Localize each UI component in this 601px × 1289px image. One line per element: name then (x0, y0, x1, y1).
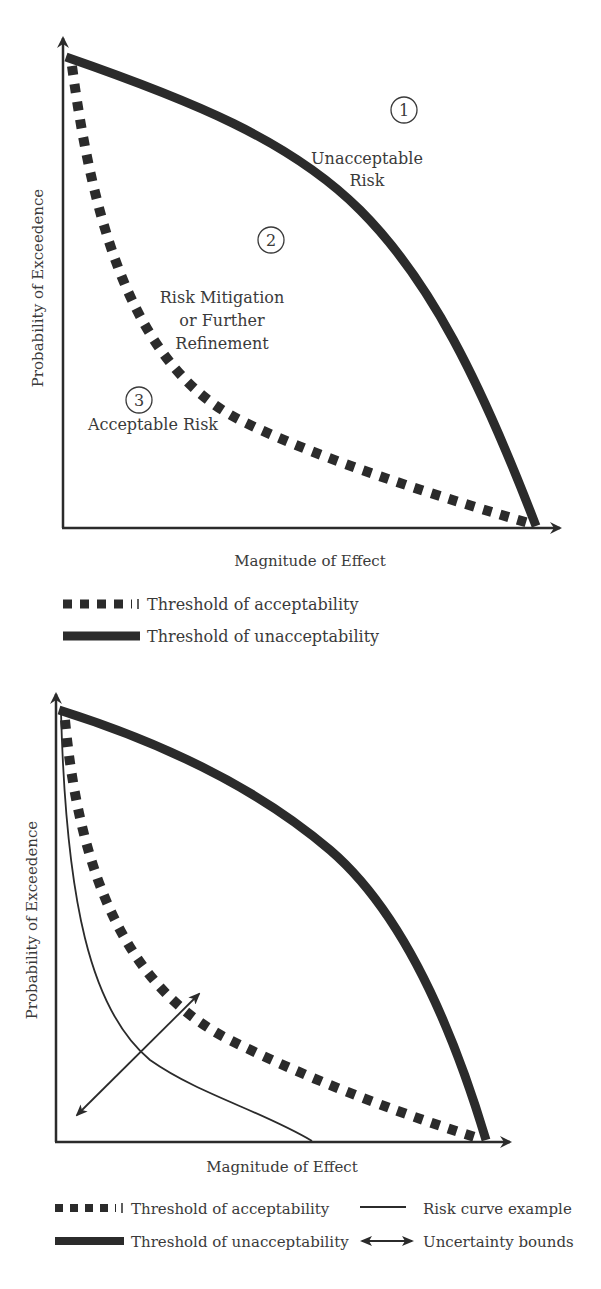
bottom-y-axis-label: Probability of Exceedence (23, 821, 41, 1020)
acceptability-threshold-curve (65, 720, 478, 1138)
top-chart: 1 Unacceptable Risk 2 Risk Mitigation or… (29, 38, 560, 646)
bottom-legend: Threshold of acceptability Threshold of … (55, 1200, 574, 1251)
region-3-label: Acceptable Risk (87, 415, 218, 434)
region-3: 3 Acceptable Risk (87, 387, 218, 434)
top-legend-unacceptability: Threshold of unacceptability (147, 627, 379, 646)
top-x-axis-label: Magnitude of Effect (234, 552, 386, 570)
unacceptability-threshold-curve (66, 57, 536, 526)
region-2-label-line1: Risk Mitigation (160, 288, 284, 307)
bottom-x-axis-label: Magnitude of Effect (206, 1158, 358, 1176)
bottom-legend-acceptability: Threshold of acceptability (131, 1200, 330, 1218)
region-1-label-line2: Risk (349, 171, 384, 190)
top-legend: Threshold of acceptability Threshold of … (63, 595, 379, 646)
risk-threshold-diagram: 1 Unacceptable Risk 2 Risk Mitigation or… (0, 0, 601, 1289)
region-1-label-line1: Unacceptable (311, 149, 423, 168)
unacceptability-threshold-curve (59, 710, 486, 1140)
uncertainty-bounds-arrow (77, 994, 199, 1115)
top-y-axis-label: Probability of Exceedence (29, 189, 47, 388)
region-3-number: 3 (134, 391, 144, 410)
risk-curve-example (61, 712, 312, 1141)
region-2-number: 2 (266, 231, 276, 250)
region-2-label-line2: or Further (179, 311, 265, 330)
region-2: 2 Risk Mitigation or Further Refinement (160, 227, 284, 353)
bottom-legend-unacceptability: Threshold of unacceptability (131, 1233, 349, 1251)
bottom-legend-uncertainty: Uncertainty bounds (423, 1233, 574, 1251)
bottom-chart: Probability of Exceedence Magnitude of E… (23, 694, 574, 1251)
acceptability-threshold-curve (72, 66, 532, 524)
region-2-label-line3: Refinement (175, 334, 269, 353)
bottom-legend-risk-curve: Risk curve example (423, 1200, 572, 1218)
top-legend-acceptability: Threshold of acceptability (147, 595, 359, 614)
region-1-number: 1 (399, 101, 409, 120)
